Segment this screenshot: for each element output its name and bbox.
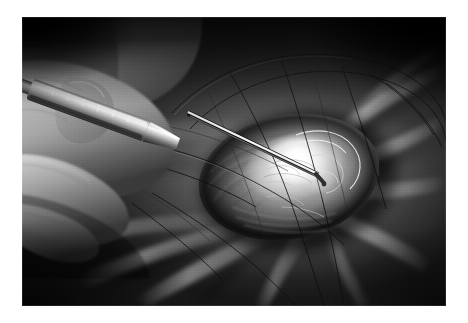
paper-grain-texture bbox=[22, 17, 446, 306]
illustration-page bbox=[0, 0, 468, 323]
medical-illustration-plate bbox=[22, 17, 446, 306]
